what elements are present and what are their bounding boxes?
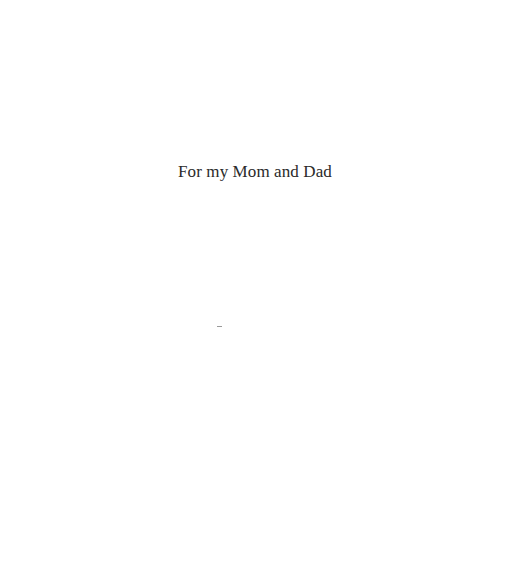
document-page: For my Mom and Dad (0, 0, 510, 561)
dedication-text: For my Mom and Dad (0, 161, 510, 183)
stray-mark (217, 326, 222, 327)
